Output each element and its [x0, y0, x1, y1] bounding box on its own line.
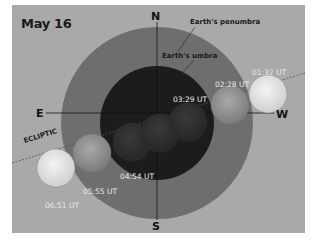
time-label-0651: 06:51 UT: [45, 201, 79, 210]
moon-0329: [169, 103, 207, 141]
north-label: N: [151, 10, 160, 23]
diagram-title: May 16: [21, 16, 72, 31]
moon-0651: [37, 149, 75, 187]
umbra-label: Earth's umbra: [162, 52, 218, 60]
time-label-0555: 05:55 UT: [83, 187, 117, 196]
east-label: E: [36, 107, 44, 120]
time-label-0132: 01:32 UT: [252, 68, 286, 77]
south-label: S: [152, 220, 160, 233]
west-label: W: [276, 108, 288, 121]
penumbra-label: Earth's penumbra: [190, 18, 260, 26]
eclipse-diagram-panel: May 16 Earth's penumbra Earth's umbra EC…: [12, 5, 305, 233]
time-label-0228: 02:28 UT: [215, 80, 249, 89]
time-label-0329: 03:29 UT: [173, 95, 207, 104]
moon-0228: [211, 86, 249, 124]
moon-0555: [73, 134, 111, 172]
eclipse-graphic: [12, 5, 305, 233]
time-label-0454: 04:54 UT: [120, 172, 154, 181]
